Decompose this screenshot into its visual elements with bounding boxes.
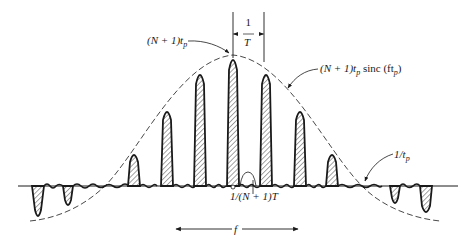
lobe-center xyxy=(227,60,239,186)
spectrum-diagram: 1 T (N + 1)tp (N + 1)tp sinc (ftp) 1/tp … xyxy=(0,0,472,249)
envelope-label: (N + 1)tp sinc (ftp) xyxy=(320,62,402,77)
lobe-plus3 xyxy=(326,155,338,186)
lobe-neg-right-outer xyxy=(420,186,432,212)
lobe-neg-right-inner xyxy=(390,186,400,203)
lobe-minus1 xyxy=(194,75,206,186)
lobe-neg-left-inner xyxy=(63,186,73,205)
lobe-neg-left-outer xyxy=(32,186,44,216)
envelope-pointer xyxy=(288,69,318,88)
lobe-plus1 xyxy=(260,75,272,186)
peak-amplitude-pointer xyxy=(188,41,229,53)
spacing-numerator: 1 xyxy=(246,16,252,28)
lobe-plus2 xyxy=(294,112,306,186)
peak-amplitude-label: (N + 1)tp xyxy=(147,34,187,49)
first-zero-label: 1/tp xyxy=(394,148,410,163)
frequency-axis-label: f xyxy=(234,223,239,235)
lobe-width-origin xyxy=(231,185,235,189)
spacing-denominator: T xyxy=(244,36,251,48)
lobe-minus2 xyxy=(161,112,173,186)
lobe-width-label: 1/(N + 1)T xyxy=(230,190,279,203)
lobe-minus3 xyxy=(128,155,140,186)
first-zero-pointer xyxy=(365,154,393,181)
